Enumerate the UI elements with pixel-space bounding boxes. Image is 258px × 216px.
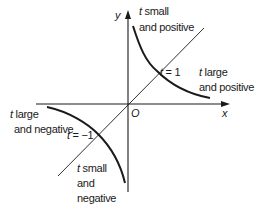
y-axis-arrow-icon: [125, 10, 131, 19]
label-t-small-negative: t small: [77, 162, 107, 174]
label-t-small-positive: t small: [139, 5, 169, 17]
line-y-equals-x: [58, 28, 204, 176]
label-t-small-positive-line2: and positive: [139, 21, 194, 33]
label-t-equals-1: t = 1: [160, 66, 180, 78]
y-axis-label: y: [114, 9, 122, 21]
label-t-large-positive: t large: [199, 66, 228, 78]
label-t-large-negative: t large: [10, 108, 39, 120]
label-t-equals-minus-1: t = −1: [67, 129, 94, 141]
label-t-small-negative-line3: negative: [77, 192, 116, 204]
x-axis-label: x: [221, 107, 228, 119]
origin-label: O: [131, 107, 140, 119]
label-t-large-negative-line2: and negative: [14, 123, 74, 135]
label-t-small-negative-line2: and: [77, 177, 95, 189]
hyperbola-diagram: y x O t small and positive t = 1 t large…: [0, 0, 258, 216]
label-t-large-positive-line2: and positive: [199, 81, 254, 93]
